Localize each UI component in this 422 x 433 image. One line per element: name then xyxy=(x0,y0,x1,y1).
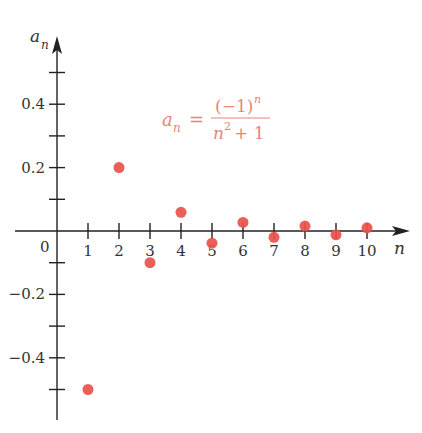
x-tick-label: 6 xyxy=(238,242,248,260)
x-tick-label: 10 xyxy=(357,242,376,260)
x-tick-label: 7 xyxy=(269,242,279,260)
data-point xyxy=(207,238,218,249)
y-axis-label: a xyxy=(30,26,40,46)
formula-denominator-rest: + 1 xyxy=(234,123,264,143)
origin-label: 0 xyxy=(40,238,50,256)
data-point xyxy=(269,232,280,243)
y-tick-label: 0.2 xyxy=(21,159,45,177)
y-tick-label: 0.4 xyxy=(21,95,45,113)
data-point xyxy=(83,384,94,395)
y-axis-label-subscript: n xyxy=(41,38,49,52)
formula-denominator-base: n xyxy=(213,123,224,143)
data-point xyxy=(362,222,373,233)
x-tick-label: 8 xyxy=(300,242,310,260)
x-tick-label: 4 xyxy=(176,242,186,260)
data-point xyxy=(145,257,156,268)
formula-numerator-exponent: n xyxy=(254,93,261,106)
x-tick-labels: 12345678910 xyxy=(83,242,376,260)
x-axis-label: n xyxy=(394,238,405,258)
formula-equals: = xyxy=(189,109,204,130)
y-tick-label: −0.2 xyxy=(9,285,45,303)
x-tick-label: 1 xyxy=(83,242,93,260)
formula-lhs: a xyxy=(162,109,173,130)
formula-numerator: (−1) xyxy=(215,96,253,116)
y-tick-label: −0.4 xyxy=(9,349,45,367)
formula-annotation: a n = (−1) n n 2 + 1 xyxy=(162,93,270,143)
x-tick-label: 2 xyxy=(114,242,124,260)
data-point xyxy=(331,229,342,240)
data-points xyxy=(83,162,373,395)
data-point xyxy=(176,207,187,218)
x-tick-label: 9 xyxy=(331,242,341,260)
formula-lhs-subscript: n xyxy=(173,121,181,135)
formula-denominator-exponent: 2 xyxy=(224,120,231,133)
data-point xyxy=(300,221,311,232)
data-point xyxy=(238,217,249,228)
chart: 0.40.2−0.2−0.4 12345678910 0 a n n a n =… xyxy=(0,0,422,433)
data-point xyxy=(114,162,125,173)
